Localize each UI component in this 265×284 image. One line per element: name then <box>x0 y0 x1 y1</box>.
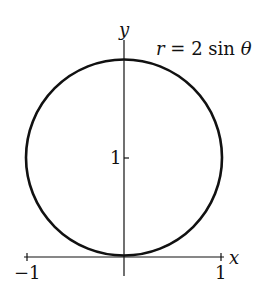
y-tick-label-1: 1 <box>110 147 121 168</box>
polar-plot: y x −1 1 1 r = 2 sin θ <box>0 0 265 284</box>
curve-label-eq: = 2 sin <box>170 38 235 59</box>
curve-label: r = 2 sin θ <box>156 38 252 59</box>
curve-label-theta: θ <box>241 38 252 59</box>
x-axis-label: x <box>229 247 239 268</box>
x-tick-label-neg1: −1 <box>14 262 41 283</box>
curve-label-r: r <box>156 38 166 59</box>
y-axis-label: y <box>118 19 130 40</box>
x-tick-label-1: 1 <box>215 262 226 283</box>
